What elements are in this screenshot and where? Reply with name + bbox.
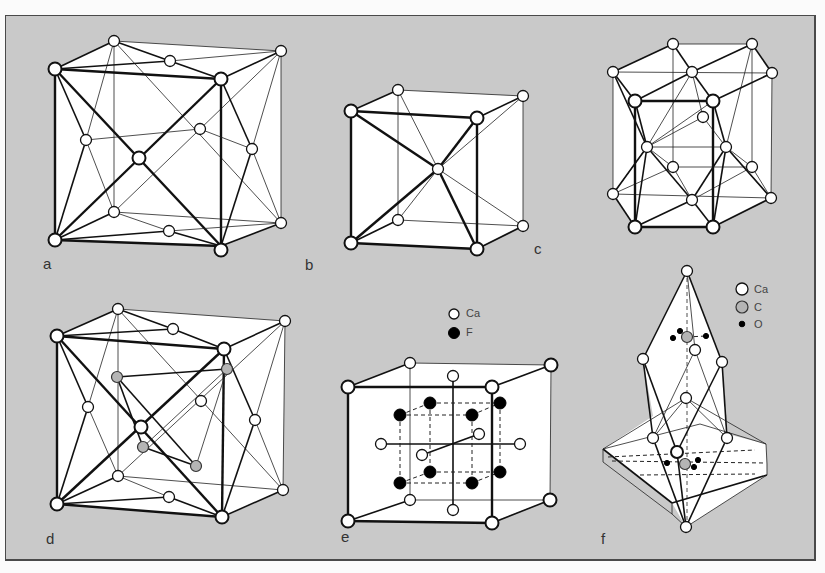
legend-o-symbol xyxy=(739,321,745,327)
panel-label-d: d xyxy=(46,530,54,547)
panel-label-b: b xyxy=(305,256,313,273)
panel-a-structure xyxy=(49,36,287,257)
panel-label-a: a xyxy=(43,255,51,272)
legend-ca-label-f: Ca xyxy=(754,283,768,295)
legend-ca-label-e: Ca xyxy=(466,307,480,319)
legend-c-label: C xyxy=(754,301,762,313)
panel-label-c: c xyxy=(534,240,542,257)
legend-ca-symbol-f xyxy=(736,283,748,295)
legend-f-label: F xyxy=(466,326,473,338)
legend-c-symbol xyxy=(736,301,748,313)
panel-d-structure xyxy=(51,304,291,524)
panel-label-f: f xyxy=(601,530,605,547)
legend-ca-symbol-e xyxy=(449,309,459,319)
panel-f-structure xyxy=(603,266,767,533)
crystal-structures-diagram: .face { fill: #ffffff; stroke: none; } .… xyxy=(0,0,825,573)
panel-b-structure xyxy=(345,85,529,256)
panel-label-e: e xyxy=(341,528,349,545)
legend-o-label: O xyxy=(754,318,763,330)
panel-e-structure xyxy=(342,309,558,530)
legend-f-symbol xyxy=(449,328,460,339)
panel-c-structure xyxy=(608,39,778,234)
